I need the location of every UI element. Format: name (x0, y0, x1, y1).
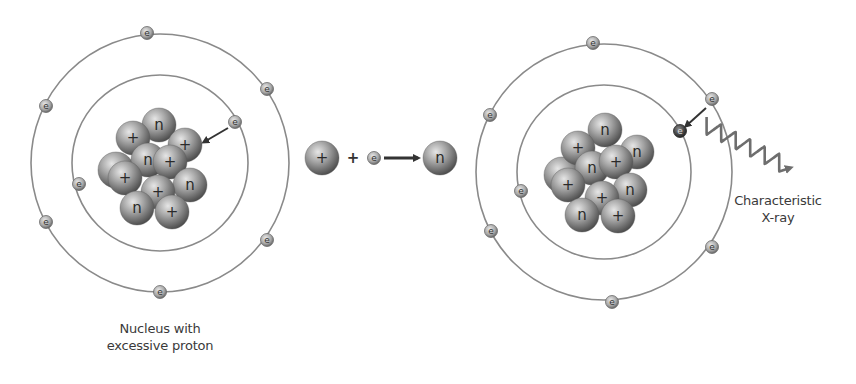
neutron-sphere: n (565, 198, 599, 232)
electron: e (484, 109, 497, 122)
electron: e (706, 93, 719, 106)
plus-icon: + (119, 169, 132, 187)
right-atom: n+nn++n+n+eeeeeeee (476, 37, 790, 309)
capture-arrow-icon (204, 128, 228, 142)
electron: e (261, 234, 274, 247)
electron: e (587, 37, 600, 50)
electron-symbol: e (264, 235, 270, 245)
electron-symbol: e (518, 186, 524, 196)
xray-label-line2: X-ray (708, 209, 848, 226)
plus-operator-icon: + (347, 149, 360, 167)
electron-symbol: e (709, 242, 715, 252)
nucleus: n++n++n+n+ (98, 108, 207, 229)
xray-label-line1: Characteristic (708, 192, 848, 209)
electron-symbol: e (609, 297, 615, 307)
electron: e (40, 100, 53, 113)
neutron-symbol: n (587, 159, 597, 177)
electron-symbol: e (677, 126, 683, 136)
plus-icon: + (127, 129, 140, 147)
electron-symbol: e (709, 94, 715, 104)
plus-icon: + (610, 153, 623, 171)
electron-symbol: e (264, 84, 270, 94)
neutron-symbol: n (143, 151, 153, 169)
xray-label: Characteristic X-ray (708, 192, 848, 226)
electron-symbol: e (487, 110, 493, 120)
neutron-symbol: n (600, 121, 610, 139)
captured-electron: e (229, 116, 242, 129)
left-label-line1: Nucleus with (70, 320, 250, 337)
electron-symbol: e (157, 287, 163, 297)
electron: e (515, 185, 528, 198)
transition-arrow-icon (686, 108, 706, 126)
proton-sphere: + (551, 168, 585, 202)
electron: e (73, 178, 86, 191)
electron-symbol: e (488, 226, 494, 236)
neutron-symbol: n (435, 149, 445, 167)
electron: e (706, 241, 719, 254)
electron: e (40, 216, 53, 229)
electron-symbol: e (76, 179, 82, 189)
left-label-line2: excessive proton (70, 337, 250, 354)
plus-icon: + (612, 207, 625, 225)
proton-sphere: + (305, 141, 339, 175)
electron-symbol: e (371, 153, 377, 163)
neutron-symbol: n (632, 143, 642, 161)
plus-icon: + (166, 203, 179, 221)
neutron-symbol: n (154, 116, 164, 134)
electron-symbol: e (232, 117, 238, 127)
proton-sphere: + (155, 195, 189, 229)
left-atom-label: Nucleus with excessive proton (70, 320, 250, 354)
neutron-symbol: n (577, 206, 587, 224)
neutron-sphere: n (423, 141, 457, 175)
nucleus: n+nn++n+n+ (544, 113, 654, 233)
plus-icon: + (164, 153, 177, 171)
proton-sphere: + (601, 199, 635, 233)
electron-symbol: e (590, 38, 596, 48)
electron-symbol: e (43, 217, 49, 227)
electron: e (485, 225, 498, 238)
xray-wave-icon (707, 117, 790, 172)
neutron-sphere: n (120, 191, 154, 225)
transition-electron: e (674, 125, 687, 138)
plus-icon: + (562, 176, 575, 194)
electron-symbol: e (144, 28, 150, 38)
electron-symbol: e (43, 101, 49, 111)
capture-reaction: ++en (305, 141, 457, 175)
electron: e (606, 296, 619, 309)
neutron-symbol: n (185, 176, 195, 194)
plus-icon: + (316, 149, 329, 167)
left-atom: n++n++n+n+eeeeeeee (31, 27, 289, 299)
electron: e (141, 27, 154, 40)
neutron-symbol: n (625, 181, 635, 199)
electron: e (154, 286, 167, 299)
electron: e (261, 83, 274, 96)
proton-sphere: + (108, 161, 142, 195)
neutron-symbol: n (132, 199, 142, 217)
reaction-electron: e (368, 152, 381, 165)
